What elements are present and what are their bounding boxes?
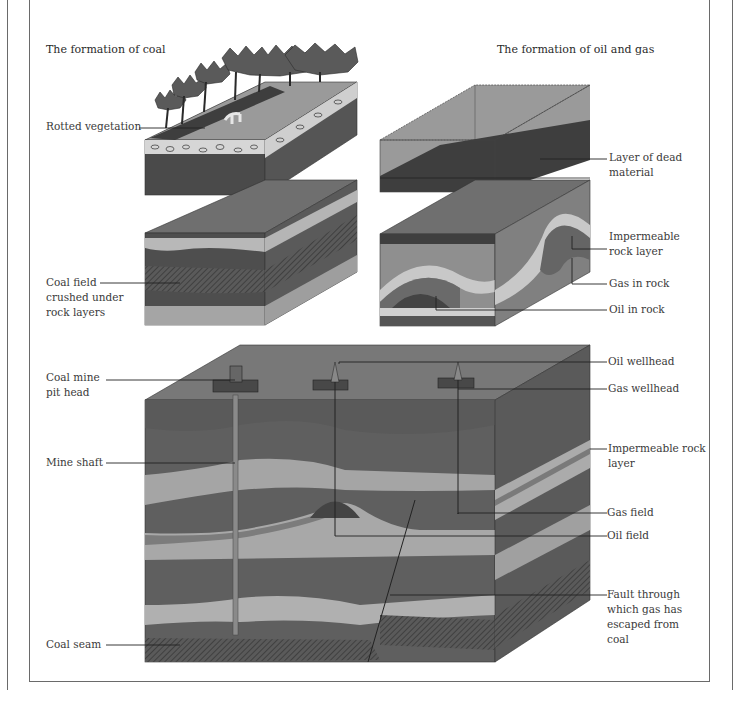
large-geology-block: [145, 345, 590, 662]
label-layer-dead-material: Layer of dead material: [609, 150, 682, 180]
label-oil-wellhead: Oil wellhead: [608, 354, 675, 369]
label-mine-shaft: Mine shaft: [46, 455, 103, 470]
label-coal-seam: Coal seam: [46, 637, 101, 652]
label-coal-mine-pit-head: Coal mine pit head: [46, 370, 100, 400]
label-oil-in-rock: Oil in rock: [609, 302, 665, 317]
label-gas-wellhead: Gas wellhead: [608, 381, 679, 396]
dead-material-block: [380, 85, 590, 192]
label-oil-field: Oil field: [607, 528, 649, 543]
label-coal-field-crushed: Coal field crushed under rock layers: [46, 275, 124, 320]
label-gas-field: Gas field: [607, 505, 654, 520]
title-formation-of-oil-gas: The formation of oil and gas: [497, 43, 654, 56]
oil-gas-block: [380, 180, 590, 326]
coal-field-block: [145, 180, 357, 325]
label-impermeable-rock-layer-bottom: Impermeable rock layer: [608, 441, 706, 471]
label-gas-in-rock: Gas in rock: [609, 276, 669, 291]
vegetation-block: [145, 43, 358, 195]
label-rotted-vegetation: Rotted vegetation: [46, 119, 141, 134]
label-fault: Fault through which gas has escaped from…: [607, 587, 682, 647]
label-impermeable-rock-layer-top: Impermeable rock layer: [609, 229, 680, 259]
title-formation-of-coal: The formation of coal: [46, 43, 166, 56]
